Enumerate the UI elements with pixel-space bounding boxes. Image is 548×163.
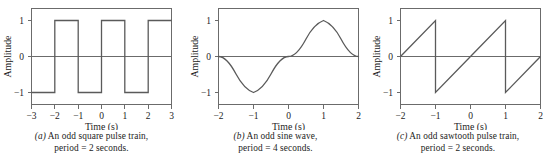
plot-c-sawtooth-wave: 1 0 −1 −2 −1 0 1 2 Time (s) Amplitude — [368, 0, 548, 130]
caption-a-text1: An odd square pulse train, — [48, 131, 148, 141]
y-tick-label-a-0: 0 — [19, 52, 24, 62]
x-tick-label-c-1: −1 — [430, 111, 440, 121]
y-tick-label-b-0: 0 — [206, 52, 211, 62]
caption-b-line2: period = 4 seconds. — [183, 142, 368, 154]
y-tick-label-a-1: 1 — [19, 16, 24, 26]
x-axis-label-b: Time (s) — [272, 121, 305, 130]
panel-a-square-pulse-train: 1 0 −1 −3 −2 −1 0 1 2 3 Time (s) Amplitu… — [0, 0, 183, 163]
x-ticks-c — [401, 105, 541, 109]
plot-b-sine-wave: 1 0 −1 −2 −1 0 1 2 Time (s) Amplitude — [183, 0, 368, 130]
x-tick-label-a-3: 0 — [99, 111, 104, 121]
figure-three-odd-waveforms: 1 0 −1 −3 −2 −1 0 1 2 3 Time (s) Amplitu… — [0, 0, 548, 163]
y-axis-label-b: Amplitude — [189, 35, 200, 78]
y-tick-label-b-neg1: −1 — [201, 88, 211, 98]
y-axis-label-c: Amplitude — [371, 35, 382, 78]
caption-c-line1: (c) An odd sawtooth pulse train, — [368, 130, 548, 142]
y-tick-label-c-1: 1 — [388, 16, 393, 26]
y-tick-label-a-neg1: −1 — [14, 88, 24, 98]
x-ticks-a — [32, 105, 172, 109]
caption-a-line2: period = 2 seconds. — [0, 142, 183, 154]
x-tick-label-b-4: 2 — [356, 111, 361, 121]
x-tick-label-a-0: −3 — [26, 111, 36, 121]
x-tick-label-a-4: 1 — [122, 111, 127, 121]
caption-b-text1: An odd sine wave, — [247, 131, 318, 141]
x-tick-label-c-0: −2 — [395, 111, 405, 121]
x-tick-label-b-0: −2 — [213, 111, 223, 121]
y-tick-label-c-neg1: −1 — [383, 88, 393, 98]
x-tick-label-a-6: 3 — [169, 111, 174, 121]
x-tick-label-a-5: 2 — [146, 111, 151, 121]
x-tick-label-c-3: 1 — [503, 111, 508, 121]
caption-b-line1: (b) An odd sine wave, — [183, 130, 368, 142]
panel-letter-a: (a) — [35, 131, 46, 141]
y-tick-label-b-1: 1 — [206, 16, 211, 26]
y-axis-label-a: Amplitude — [2, 35, 13, 78]
x-tick-label-a-2: −1 — [73, 111, 83, 121]
y-ticks-c — [397, 21, 401, 93]
x-axis-label-a: Time (s) — [85, 121, 118, 130]
caption-c-text1: An odd sawtooth pulse train, — [409, 131, 519, 141]
x-tick-label-b-1: −1 — [248, 111, 258, 121]
panel-letter-c: (c) — [397, 131, 408, 141]
x-axis-label-c: Time (s) — [454, 121, 487, 130]
plot-a-square-wave: 1 0 −1 −3 −2 −1 0 1 2 3 Time (s) Amplitu… — [0, 0, 183, 130]
y-tick-label-c-0: 0 — [388, 52, 393, 62]
x-tick-label-c-2: 0 — [468, 111, 473, 121]
caption-c-line2: period = 2 seconds. — [368, 142, 548, 154]
panel-b-sine-wave: 1 0 −1 −2 −1 0 1 2 Time (s) Amplitude (b… — [183, 0, 368, 163]
x-tick-label-a-1: −2 — [50, 111, 60, 121]
y-ticks-a — [28, 21, 32, 93]
caption-a-line1: (a) An odd square pulse train, — [0, 130, 183, 142]
panel-letter-b: (b) — [234, 131, 245, 141]
x-tick-label-b-2: 0 — [286, 111, 291, 121]
x-tick-label-b-3: 1 — [321, 111, 326, 121]
x-tick-label-c-4: 2 — [538, 111, 543, 121]
panel-c-sawtooth-pulse-train: 1 0 −1 −2 −1 0 1 2 Time (s) Amplitude (c… — [368, 0, 548, 163]
x-ticks-b — [219, 105, 359, 109]
